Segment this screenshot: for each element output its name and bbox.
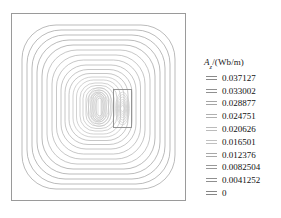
legend: Az/(Wb/m) 0.037127 0.033002 0.028877 [196, 57, 281, 197]
legend-swatch-icon [206, 89, 217, 94]
legend-swatch-icon [206, 127, 217, 132]
legend-swatch-icon [206, 101, 217, 106]
legend-swatch-icon [206, 76, 217, 81]
legend-entry-label: 0.020626 [222, 125, 256, 134]
contour-plot-figure: Az/(Wb/m) 0.037127 0.033002 0.028877 [0, 0, 281, 218]
legend-entry: 0.037127 [196, 72, 281, 85]
legend-swatch-icon [206, 140, 217, 145]
legend-entry-label: 0 [222, 189, 227, 198]
legend-title: Az/(Wb/m) [204, 57, 244, 69]
legend-entry-label: 0.033002 [222, 87, 256, 96]
legend-swatch-icon [206, 114, 217, 119]
legend-entry: 0.0041252 [196, 174, 281, 187]
plot-border [12, 14, 186, 201]
contour-plot-panel [11, 13, 186, 201]
legend-title-subscript: z [210, 63, 213, 70]
legend-swatch-icon [206, 153, 217, 158]
legend-entry: 0.020626 [196, 123, 281, 136]
legend-swatch-icon [206, 178, 217, 183]
legend-swatch-icon [206, 191, 217, 196]
legend-entry-label: 0.012376 [222, 151, 256, 160]
legend-entry: 0.024751 [196, 110, 281, 123]
legend-title-units: /(Wb/m) [212, 57, 244, 67]
contour-lines-svg [11, 13, 186, 201]
legend-entry-label: 0.037127 [222, 74, 256, 83]
legend-entry-label: 0.028877 [222, 99, 256, 108]
legend-entry: 0.028877 [196, 98, 281, 111]
legend-entry: 0.033002 [196, 85, 281, 98]
legend-entry-label: 0.0082504 [222, 163, 260, 172]
legend-entry-list: 0.037127 0.033002 0.028877 0.024751 [196, 72, 281, 200]
legend-entry-label: 0.024751 [222, 112, 256, 121]
legend-entry: 0 [196, 187, 281, 200]
legend-entry-label: 0.0041252 [222, 176, 260, 185]
legend-swatch-icon [206, 165, 217, 170]
legend-entry: 0.016501 [196, 136, 281, 149]
legend-entry-label: 0.016501 [222, 138, 256, 147]
legend-entry: 0.0082504 [196, 162, 281, 175]
legend-entry: 0.012376 [196, 149, 281, 162]
legend-title-variable: A [204, 57, 210, 67]
